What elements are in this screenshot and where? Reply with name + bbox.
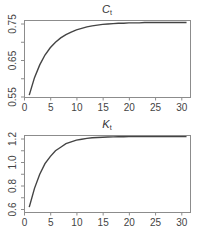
x-tick-label: 15 (98, 102, 110, 113)
x-tick-label: 0 (22, 217, 28, 228)
panel-k-t: Kt 051015202530 0.60.81.01.2 (7, 118, 191, 228)
x-tick-label: 20 (124, 102, 136, 113)
x-tick-label: 20 (124, 217, 136, 228)
panel-c-t: Ct 051015202530 0.550.650.75 (7, 3, 191, 113)
y-axis: 0.60.81.01.2 (7, 132, 25, 217)
x-tick-label: 5 (48, 217, 54, 228)
y-tick-label: 0.8 (7, 179, 18, 193)
x-tick-label: 30 (176, 217, 188, 228)
x-tick-label: 0 (22, 102, 28, 113)
chart-figure: Ct 051015202530 0.550.650.75 Kt 05101520… (0, 0, 197, 230)
x-tick-label: 25 (150, 217, 162, 228)
x-tick-label: 30 (176, 102, 188, 113)
x-tick-label: 5 (48, 102, 54, 113)
data-line (29, 137, 186, 208)
y-tick-label: 0.55 (7, 87, 18, 107)
x-tick-label: 10 (71, 102, 83, 113)
y-tick-label: 1.2 (7, 132, 18, 146)
y-tick-label: 0.65 (7, 50, 18, 70)
x-tick-label: 25 (150, 102, 162, 113)
panel-title: Ct (102, 3, 112, 16)
plot-frame (25, 136, 191, 213)
data-line (29, 23, 186, 96)
plot-frame (25, 21, 191, 98)
y-tick-label: 1.0 (7, 155, 18, 169)
x-tick-label: 10 (71, 217, 83, 228)
panel-title: Kt (102, 118, 111, 131)
y-axis: 0.550.650.75 (7, 14, 25, 107)
x-tick-label: 15 (98, 217, 110, 228)
x-axis: 051015202530 (22, 213, 188, 228)
y-tick-label: 0.6 (7, 202, 18, 216)
y-tick-label: 0.75 (7, 14, 18, 34)
x-axis: 051015202530 (22, 98, 188, 113)
